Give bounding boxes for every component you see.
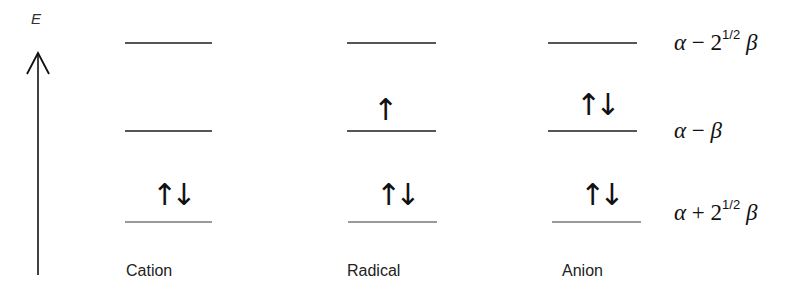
cation-level-mid [125, 130, 212, 132]
radical-level-top [347, 42, 436, 44]
radical-level-bottom [348, 221, 437, 223]
energy-label-bottom: α + 21/2 β [674, 199, 757, 226]
radical-spin-pair-icon: ↑↓ [376, 180, 414, 210]
energy-label-mid: α − β [674, 118, 722, 144]
energy-axis-label: E [31, 10, 41, 27]
anion-spin-pair-bottom-icon: ↑↓ [580, 180, 618, 210]
radical-level-mid [347, 130, 436, 132]
anion-spin-pair-mid-icon: ↑↓ [576, 90, 614, 120]
anion-level-top [548, 42, 637, 44]
cation-label: Cation [126, 262, 172, 280]
anion-label: Anion [562, 262, 603, 280]
anion-level-bottom [552, 221, 641, 223]
cation-level-bottom [125, 221, 212, 223]
cation-level-top [125, 42, 212, 44]
energy-axis-arrow-icon [22, 50, 56, 278]
radical-label: Radical [347, 262, 400, 280]
cation-spin-pair-icon: ↑↓ [152, 180, 190, 210]
energy-label-top: α − 21/2 β [674, 29, 757, 56]
radical-spin-up-icon: ↑ [373, 95, 392, 125]
anion-level-mid [548, 130, 637, 132]
